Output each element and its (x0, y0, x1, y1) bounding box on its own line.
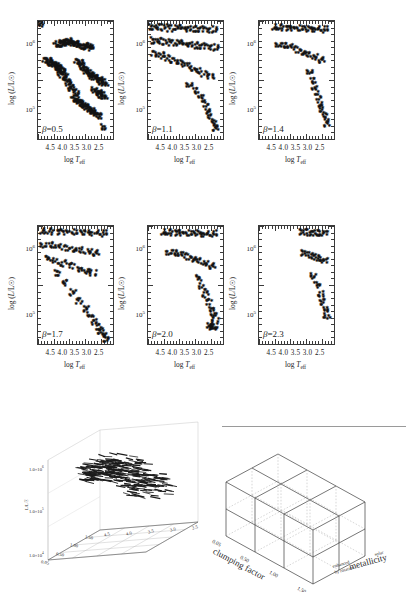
axis-tick (38, 132, 41, 133)
axis-tick (309, 136, 310, 139)
cube-edge (252, 468, 281, 484)
x-tick-label: 4.0 (168, 144, 178, 152)
axis-tick (113, 341, 114, 344)
x-axis-title-subscript: eff (189, 159, 195, 165)
axis-tick (223, 226, 224, 229)
data-point: ✱ (37, 20, 41, 24)
axis-tick (220, 233, 223, 234)
cube-edge (284, 514, 313, 530)
axis-tick (331, 252, 334, 253)
axis-tick (272, 136, 273, 139)
axis-tick (220, 311, 223, 312)
y-tick-label: 106 (15, 244, 35, 253)
axis-tick (97, 21, 98, 24)
axis-tick (108, 344, 113, 345)
x-tick-label: 3.0 (82, 349, 92, 357)
x-tick-labels: 4.54.03.53.02.5 (250, 144, 341, 152)
axis-line (144, 464, 153, 465)
axis-tick (331, 278, 334, 279)
axis-tick (148, 278, 151, 279)
axis-tick (259, 285, 264, 286)
bottom-figure-row: 1.0×1061.0×1051.0×104L/L☉4.54.03.53.02.5… (0, 420, 406, 592)
axis-tick (218, 344, 223, 345)
axis-tick (69, 21, 70, 26)
x-axis-title: log Teff (139, 155, 230, 165)
x-axis-title-prefix: log (285, 360, 296, 369)
axis-tick (331, 292, 334, 293)
axis-tick (110, 278, 113, 279)
plot3d-x-tick-label: 4.0 (125, 530, 132, 537)
axis-tick (331, 54, 334, 55)
axis-tick (329, 226, 334, 227)
axis-line (84, 463, 94, 464)
axis-tick (265, 341, 266, 344)
x-axis-title: log Teff (139, 360, 230, 370)
data-point: ✱ (79, 251, 83, 256)
axis-tick (66, 21, 67, 24)
axis-tick (268, 136, 269, 139)
axis-tick (173, 136, 174, 139)
axis-tick (170, 341, 171, 344)
axis-tick (113, 136, 114, 139)
axis-tick (44, 341, 45, 344)
data-point: ✱ (77, 267, 81, 272)
axis-tick (148, 126, 151, 127)
axis-tick (278, 226, 279, 229)
axis-tick (211, 339, 212, 344)
axis-tick (51, 21, 52, 24)
data-point: ✱ (294, 51, 298, 56)
x-axis-title-prefix: log (285, 155, 296, 164)
axis-tick (259, 21, 264, 22)
data-point: ✱ (206, 73, 210, 78)
axis-tick (300, 136, 301, 139)
y-tick-label: 105 (125, 310, 145, 319)
axis-line (126, 458, 133, 460)
beta-value: =1.1 (156, 124, 172, 134)
axis-tick (220, 239, 223, 240)
axis-tick (148, 113, 151, 114)
data-point: ✱ (274, 42, 278, 47)
axis-tick (69, 134, 70, 139)
axis-tick (204, 341, 205, 344)
axis-line (136, 459, 144, 460)
axis-tick (259, 259, 262, 260)
data-point: ✱ (68, 263, 72, 268)
axis-tick (259, 60, 262, 61)
axis-tick (284, 341, 285, 344)
axis-tick (331, 239, 334, 240)
x-tick-label: 3.0 (82, 144, 92, 152)
axis-tick (157, 136, 158, 139)
axis-tick (303, 136, 304, 139)
axis-tick (259, 47, 262, 48)
axis-tick (148, 239, 151, 240)
panel-beta-1.1: ✱✱✱✱✱✱✱✱✱✱✱✱✱✱✱✱✱✱✱✱✱✱✱✱✱✱✱✱✱✱✱✱✱✱✱✱✱✱✱✱… (147, 20, 222, 172)
axis-line (111, 481, 118, 483)
data-point: ✱ (320, 261, 324, 266)
axis-tick (220, 73, 223, 74)
x-tick-label: 4.0 (279, 349, 289, 357)
axis-tick (148, 337, 151, 338)
axis-tick (281, 341, 282, 344)
axis-tick (38, 324, 41, 325)
axis-tick (38, 41, 41, 42)
axis-tick (198, 341, 199, 344)
data-point: ✱ (310, 87, 314, 92)
y-tick-base: 10 (247, 40, 254, 48)
data-point: ✱ (326, 29, 330, 34)
x-tick-label: 3.0 (303, 349, 313, 357)
axis-tick (110, 132, 113, 133)
y-tick-exponent: 5 (33, 310, 36, 315)
axis-tick (306, 339, 307, 344)
axis-tick (218, 139, 223, 140)
y-axis-title-suffix: /L☉) (228, 277, 237, 292)
axis-tick (148, 265, 151, 266)
y-tick-exponent: 6 (33, 39, 36, 44)
axis-tick (38, 126, 41, 127)
data-point: ✱ (309, 272, 313, 277)
axis-tick (51, 341, 52, 344)
axis-tick (331, 126, 334, 127)
axis-tick (268, 341, 269, 344)
x-axis-title-subscript: eff (300, 159, 306, 165)
axis-tick (220, 252, 223, 253)
axis-tick (38, 331, 41, 332)
